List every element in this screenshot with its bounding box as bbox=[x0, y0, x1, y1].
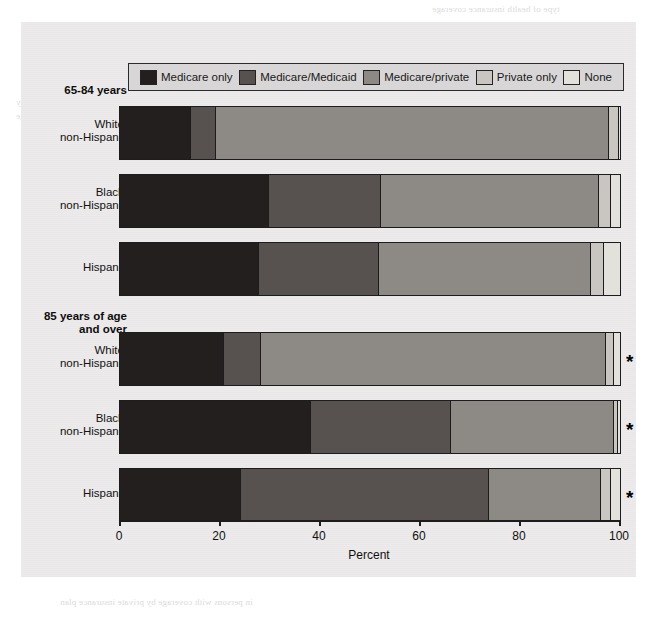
stacked-bar bbox=[119, 468, 621, 522]
bar-segment bbox=[215, 107, 608, 159]
bar-segment bbox=[617, 401, 621, 453]
significance-asterisk: * bbox=[626, 488, 633, 507]
x-axis-tick bbox=[419, 520, 421, 526]
bar-row-label: Hispanic bbox=[0, 261, 127, 274]
bar-segment bbox=[268, 175, 381, 227]
bleedthrough-text: type of health insurance coverage bbox=[432, 3, 560, 15]
legend-swatch-icon bbox=[239, 70, 256, 85]
bar-segment bbox=[378, 243, 591, 295]
legend-item[interactable]: Medicare only bbox=[140, 70, 233, 85]
bar-segment bbox=[310, 401, 450, 453]
age-group-title: 65-84 years bbox=[0, 84, 127, 97]
bar-row-label: White, non-Hispanic bbox=[0, 344, 127, 370]
bar-segment bbox=[603, 243, 621, 295]
bar-segment bbox=[605, 333, 613, 385]
x-axis-tick bbox=[519, 520, 521, 526]
bar-segment bbox=[120, 401, 310, 453]
x-axis-tick-label: 80 bbox=[512, 529, 525, 543]
x-axis-tick bbox=[219, 520, 221, 526]
bar-row-label: Black, non-Hispanic bbox=[0, 186, 127, 212]
bar-segment bbox=[260, 333, 605, 385]
stacked-bar bbox=[119, 106, 621, 160]
stacked-bar bbox=[119, 174, 621, 228]
chart-legend: Medicare onlyMedicare/MedicaidMedicare/p… bbox=[128, 63, 624, 91]
legend-swatch-icon bbox=[563, 70, 580, 85]
bar-segment bbox=[610, 175, 620, 227]
bar-segment bbox=[600, 469, 610, 521]
bar-segment bbox=[608, 107, 618, 159]
bar-segment bbox=[120, 107, 190, 159]
bar-row-label: Black, non-Hispanic bbox=[0, 412, 127, 438]
legend-swatch-icon bbox=[140, 70, 157, 85]
x-axis-line bbox=[119, 520, 619, 522]
bar-row-label: White, non-Hispanic bbox=[0, 118, 127, 144]
x-axis-tick-label: 20 bbox=[212, 529, 225, 543]
x-axis-tick bbox=[319, 520, 321, 526]
bar-segment bbox=[120, 469, 240, 521]
legend-item-label: None bbox=[584, 71, 612, 83]
x-axis-tick-label: 40 bbox=[312, 529, 325, 543]
bar-segment bbox=[610, 469, 620, 521]
legend-swatch-icon bbox=[363, 70, 380, 85]
x-axis-tick bbox=[119, 520, 121, 526]
x-axis: 020406080100 Percent bbox=[119, 520, 619, 521]
legend-swatch-icon bbox=[476, 70, 493, 85]
legend-item[interactable]: Medicare/Medicaid bbox=[239, 70, 357, 85]
bleedthrough-text: in persons with coverage by private insu… bbox=[60, 596, 253, 608]
stacked-bar bbox=[119, 332, 621, 386]
bar-segment bbox=[450, 401, 613, 453]
bar-row-label: Hispanic bbox=[0, 487, 127, 500]
legend-item-label: Private only bbox=[497, 71, 557, 83]
x-axis-tick-label: 0 bbox=[116, 529, 123, 543]
bar-segment bbox=[120, 333, 223, 385]
significance-asterisk: * bbox=[626, 352, 633, 371]
bar-segment bbox=[590, 243, 603, 295]
figure-panel: Medicare onlyMedicare/MedicaidMedicare/p… bbox=[21, 22, 636, 577]
x-axis-title: Percent bbox=[348, 548, 389, 562]
legend-item[interactable]: Private only bbox=[476, 70, 557, 85]
bar-segment bbox=[598, 175, 611, 227]
legend-item[interactable]: None bbox=[563, 70, 612, 85]
plot-area: 65-84 years85 years of age and overWhite… bbox=[21, 22, 636, 577]
stacked-bar bbox=[119, 242, 621, 296]
legend-item-label: Medicare only bbox=[161, 71, 233, 83]
bar-segment bbox=[240, 469, 488, 521]
x-axis-tick-label: 100 bbox=[609, 529, 629, 543]
stacked-bar bbox=[119, 400, 621, 454]
x-axis-tick-label: 60 bbox=[412, 529, 425, 543]
legend-item-label: Medicare/Medicaid bbox=[260, 71, 357, 83]
bar-segment bbox=[223, 333, 261, 385]
legend-item[interactable]: Medicare/private bbox=[363, 70, 469, 85]
x-axis-tick bbox=[619, 520, 621, 526]
bar-segment bbox=[380, 175, 598, 227]
bar-segment bbox=[613, 333, 621, 385]
bar-segment bbox=[120, 175, 268, 227]
bar-segment bbox=[618, 107, 621, 159]
significance-asterisk: * bbox=[626, 420, 633, 439]
legend-item-label: Medicare/private bbox=[384, 71, 469, 83]
age-group-title: 85 years of age and over bbox=[0, 310, 127, 336]
bar-segment bbox=[190, 107, 215, 159]
bar-segment bbox=[258, 243, 378, 295]
bar-segment bbox=[120, 243, 258, 295]
bar-segment bbox=[488, 469, 601, 521]
